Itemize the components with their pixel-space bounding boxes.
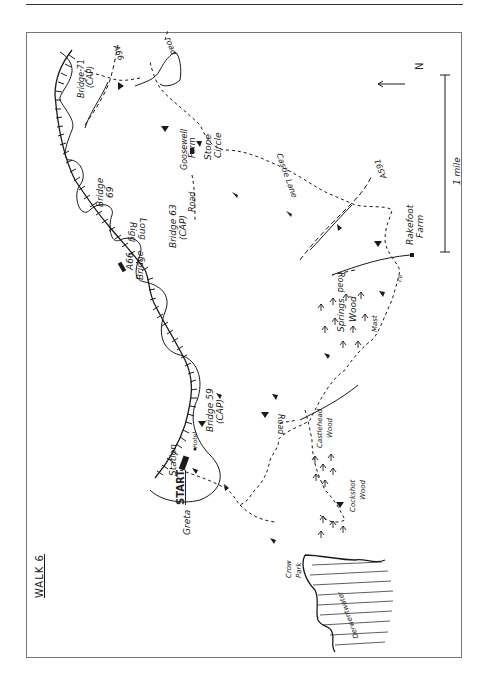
bridge-69-label-line1: Bridge (95, 178, 105, 207)
bridge-63-label: Bridge 63 (168, 204, 178, 248)
buildings (118, 148, 414, 471)
a66-bridge-label-line2: Bridge (135, 251, 145, 280)
hotel-label: Hotel (190, 432, 200, 448)
station-building (179, 455, 189, 470)
north-arrow (378, 81, 405, 87)
castlehead-wood-label-line1: Castlehead (315, 409, 325, 448)
page-title: WALK 6 (34, 554, 45, 598)
cockshot-wood-label-line1: Cockshot (348, 480, 358, 512)
stone-circle-label-line1: Stone (203, 134, 213, 160)
bridge-69-label-line2: 69 (105, 187, 115, 198)
bridge-59-label: Bridge 59 (205, 388, 215, 432)
road-a591 (300, 175, 372, 260)
scale-label: 1 mile (452, 157, 462, 185)
rakefoot-farm-label-line2: Farm (415, 215, 425, 238)
bridge-59-sub-label: (CAP) (215, 399, 225, 424)
stone-circle-label-line2: Circle (213, 133, 223, 158)
road-right-label: Road (335, 272, 345, 292)
road-lower-label: Road (275, 414, 285, 434)
road-lower (300, 385, 358, 420)
railway-line (55, 50, 191, 478)
crow-park-label-line2: Park (294, 563, 304, 578)
road-a591-solid (310, 205, 352, 250)
long-rigg-label-line1: Long (138, 218, 148, 240)
road-a66-solid (85, 82, 108, 128)
footbridge-label: F.B (395, 275, 405, 282)
road-top (135, 52, 181, 86)
springs-wood-label-line2: Wood (348, 296, 358, 322)
a66-bridge-label-line1: A66 (125, 252, 135, 270)
walk-route (80, 60, 400, 505)
north-label: N (415, 63, 425, 70)
scale-bar (440, 75, 450, 252)
station-label: Station (168, 444, 178, 476)
long-rigg-label-line2: Rigg (128, 222, 138, 242)
greta-label: Greta (182, 510, 192, 535)
road-mid-label: Road (188, 192, 198, 212)
cockshot-wood-label-line2: Wood (358, 480, 368, 500)
crow-park-label-line1: Crow (284, 560, 294, 578)
bridge-71-sub-label: (CAP) (86, 66, 96, 88)
springs-wood-label-line1: Springs (336, 298, 346, 332)
bridge-63-sub-label: (CAP) (178, 215, 188, 240)
mast-label: Mast (370, 315, 380, 332)
goosewell-farm-label-line2: Farm (188, 137, 198, 158)
rakefoot-farm-label-line1: Rakefoot (405, 205, 415, 245)
rakefoot-farm-building (410, 253, 414, 257)
castlehead-wood-label-line2: Wood (325, 418, 335, 438)
walk-map (0, 0, 488, 688)
